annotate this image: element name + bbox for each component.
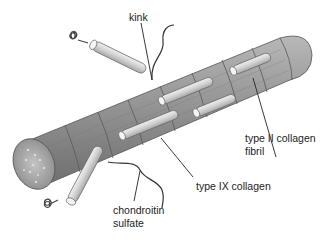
label-kink: kink	[129, 11, 148, 23]
label-type-ix-collagen: type IX collagen	[196, 180, 271, 192]
fibril-illustration	[0, 0, 333, 240]
label-type-ii-collagen-fibril-line1: type II collagen	[245, 132, 316, 144]
label-chondroitin-sulfate-line1: chondroitin	[113, 204, 164, 216]
label-type-ii-collagen-fibril-line2: fibril	[245, 145, 264, 157]
label-chondroitin-sulfate-line2: sulfate	[113, 217, 144, 229]
collagen-fibril-diagram: kink type II collagen fibril type IX col…	[0, 0, 333, 240]
